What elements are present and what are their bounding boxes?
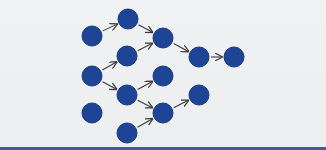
node-I: [153, 103, 173, 123]
edge-I-M: [174, 100, 189, 107]
edge-D-C: [138, 43, 153, 50]
node-C: [153, 28, 173, 48]
node-E: [82, 66, 102, 86]
edge-E-F: [103, 82, 117, 90]
node-A: [82, 26, 102, 46]
node-K: [189, 47, 209, 67]
edge-J-I: [137, 119, 152, 127]
edge-A-B: [103, 24, 117, 31]
node-F: [117, 85, 137, 105]
node-D: [117, 46, 137, 66]
node-L: [224, 47, 244, 67]
node-B: [118, 9, 138, 29]
directed-graph: [0, 0, 326, 150]
node-H: [82, 103, 102, 123]
node-G: [153, 66, 173, 86]
edge-C-K: [174, 44, 189, 52]
edge-B-C: [139, 25, 153, 33]
diagram-canvas: [0, 0, 326, 150]
edge-F-I: [138, 100, 153, 107]
edge-F-G: [138, 82, 153, 90]
node-J: [117, 123, 137, 143]
node-M: [189, 85, 209, 105]
bottom-border: [0, 147, 326, 150]
edge-E-D: [102, 62, 116, 70]
